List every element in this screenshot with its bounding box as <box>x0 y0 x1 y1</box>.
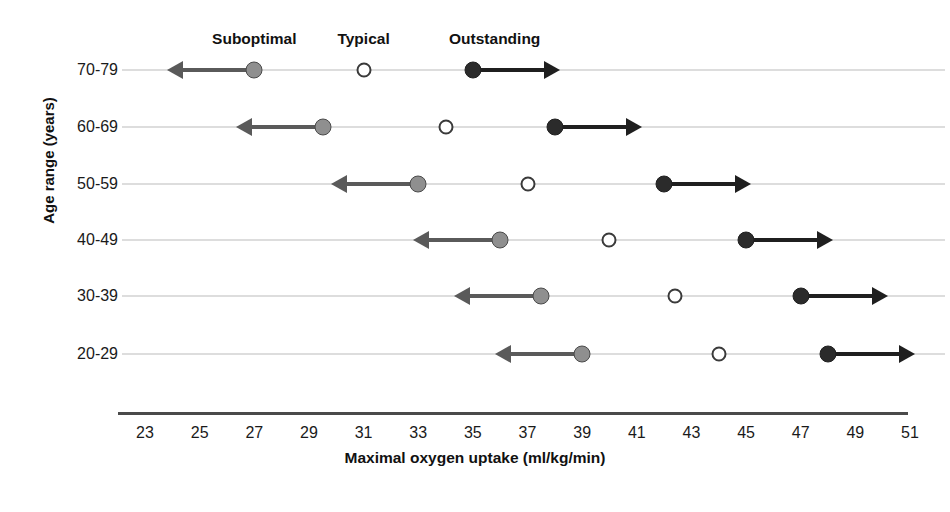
outstanding-arrow <box>801 294 873 298</box>
outstanding-arrow <box>746 238 818 242</box>
data-point-typical-20-29 <box>711 347 726 362</box>
x-tick-31: 31 <box>355 424 373 442</box>
legend-label-outstanding: Outstanding <box>449 30 540 48</box>
data-point-typical-30-39 <box>668 289 683 304</box>
x-tick-49: 49 <box>846 424 864 442</box>
x-tick-33: 33 <box>409 424 427 442</box>
data-point-outstanding-50-59 <box>656 176 673 193</box>
category-label-20-29: 20-29 <box>28 345 118 363</box>
arrow-head-right-icon <box>817 231 833 249</box>
data-point-typical-70-79 <box>356 63 371 78</box>
outstanding-arrow <box>473 68 545 72</box>
data-point-typical-40-49 <box>602 233 617 248</box>
arrow-head-right-icon <box>544 61 560 79</box>
data-point-suboptimal-40-49 <box>492 232 509 249</box>
suboptimal-arrow <box>346 182 418 186</box>
category-label-50-59: 50-59 <box>28 175 118 193</box>
x-axis-title: Maximal oxygen uptake (ml/kg/min) <box>0 449 950 467</box>
legend-label-suboptimal: Suboptimal <box>212 30 296 48</box>
x-axis-line <box>118 412 908 415</box>
x-tick-25: 25 <box>191 424 209 442</box>
x-tick-43: 43 <box>683 424 701 442</box>
data-point-typical-60-69 <box>438 120 453 135</box>
x-tick-29: 29 <box>300 424 318 442</box>
data-point-typical-50-59 <box>520 177 535 192</box>
data-point-suboptimal-20-29 <box>574 346 591 363</box>
vo2max-reference-chart: Age range (years) 70-7960-6950-5940-4930… <box>0 0 950 512</box>
x-tick-39: 39 <box>573 424 591 442</box>
data-point-outstanding-70-79 <box>464 62 481 79</box>
x-tick-41: 41 <box>628 424 646 442</box>
data-point-suboptimal-30-39 <box>533 288 550 305</box>
data-point-suboptimal-50-59 <box>410 176 427 193</box>
data-point-suboptimal-70-79 <box>246 62 263 79</box>
x-tick-23: 23 <box>136 424 154 442</box>
x-tick-51: 51 <box>901 424 919 442</box>
category-label-70-79: 70-79 <box>28 61 118 79</box>
outstanding-arrow <box>828 352 900 356</box>
data-point-suboptimal-60-69 <box>314 119 331 136</box>
outstanding-arrow <box>664 182 736 186</box>
suboptimal-arrow <box>510 352 582 356</box>
arrow-head-right-icon <box>899 345 915 363</box>
suboptimal-arrow <box>469 294 541 298</box>
suboptimal-arrow <box>428 238 500 242</box>
x-tick-37: 37 <box>519 424 537 442</box>
arrow-head-left-icon <box>495 345 511 363</box>
suboptimal-arrow <box>182 68 254 72</box>
arrow-head-left-icon <box>454 287 470 305</box>
data-point-outstanding-20-29 <box>820 346 837 363</box>
suboptimal-arrow <box>251 125 323 129</box>
data-point-outstanding-60-69 <box>546 119 563 136</box>
data-point-outstanding-40-49 <box>738 232 755 249</box>
arrow-head-left-icon <box>331 175 347 193</box>
x-tick-27: 27 <box>245 424 263 442</box>
category-label-60-69: 60-69 <box>28 118 118 136</box>
legend-label-typical: Typical <box>337 30 389 48</box>
category-label-30-39: 30-39 <box>28 287 118 305</box>
x-tick-45: 45 <box>737 424 755 442</box>
arrow-head-right-icon <box>872 287 888 305</box>
arrow-head-left-icon <box>167 61 183 79</box>
data-point-outstanding-30-39 <box>792 288 809 305</box>
arrow-head-left-icon <box>413 231 429 249</box>
arrow-head-right-icon <box>626 118 642 136</box>
arrow-head-left-icon <box>236 118 252 136</box>
arrow-head-right-icon <box>735 175 751 193</box>
x-tick-35: 35 <box>464 424 482 442</box>
category-label-40-49: 40-49 <box>28 231 118 249</box>
outstanding-arrow <box>555 125 627 129</box>
x-tick-47: 47 <box>792 424 810 442</box>
